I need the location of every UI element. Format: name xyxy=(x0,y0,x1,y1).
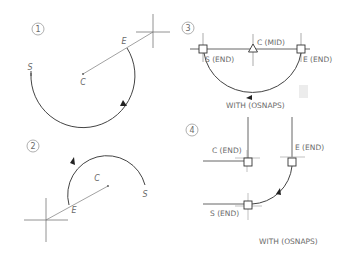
panel-3-end-osnap-box xyxy=(297,45,305,53)
panel-3-caption: WITH (OSNAPS) xyxy=(226,101,285,110)
panel-1-number: 1 xyxy=(35,25,40,34)
panel-4-label-start: S (END) xyxy=(210,209,239,218)
panel-4-arrow-icon xyxy=(276,188,281,195)
panel-3-smudge xyxy=(299,85,308,98)
panel-4: 4 C (END) E (END) S (END) WITH (OSNAPS) xyxy=(186,117,324,246)
panel-2-number: 2 xyxy=(30,142,35,151)
panel-3-label-center: C (MID) xyxy=(257,38,285,47)
panel-4-label-center: C (END) xyxy=(212,146,242,155)
panel-1-label-start: S xyxy=(27,63,32,72)
panel-3: 3 C (MID) S (END) E (END) WITH (OSNAPS) xyxy=(182,22,332,110)
panel-4-e-osnap-box xyxy=(288,158,296,166)
panel-3-start-osnap-box xyxy=(199,45,207,53)
panel-4-number: 4 xyxy=(189,126,194,135)
panel-1-radius-line xyxy=(83,32,153,74)
panel-2-label-start: S xyxy=(142,190,147,199)
arc-diagram-canvas: 1 S C E 2 S C E 3 xyxy=(0,0,349,254)
panel-2-center-dot xyxy=(107,185,109,187)
panel-2: 2 S C E xyxy=(24,140,148,242)
panel-4-label-end: E (END) xyxy=(295,143,324,152)
panel-3-arrow-icon xyxy=(246,95,252,100)
panel-3-number: 3 xyxy=(185,24,190,33)
panel-1-label-center: C xyxy=(80,78,86,87)
panel-4-arc xyxy=(252,166,292,204)
panel-3-label-end: E (END) xyxy=(303,55,332,64)
panel-4-c-osnap-box xyxy=(244,158,252,166)
panel-2-radius-line xyxy=(46,186,108,220)
panel-1-arc xyxy=(31,48,135,128)
panel-1: 1 S C E xyxy=(27,14,170,128)
panel-2-label-center: C xyxy=(94,174,100,183)
panel-1-arrow-icon xyxy=(120,100,127,106)
panel-2-arc xyxy=(68,156,145,205)
panel-2-label-end: E xyxy=(71,206,77,215)
panel-2-arrow-icon xyxy=(70,157,75,165)
panel-1-label-end: E xyxy=(121,37,127,46)
panel-3-label-start: S (END) xyxy=(205,55,234,64)
panel-1-center-dot xyxy=(82,73,84,75)
panel-4-caption: WITH (OSNAPS) xyxy=(259,237,318,246)
panel-4-s-osnap-box xyxy=(244,201,252,209)
